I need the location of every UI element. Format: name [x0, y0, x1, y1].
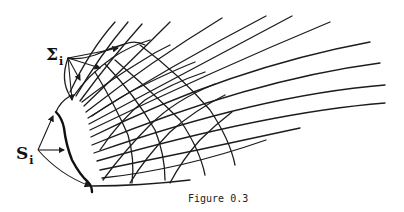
s-subscript: i	[29, 154, 33, 167]
transverse-lines	[72, 40, 235, 183]
sigma-subscript: i	[59, 55, 63, 68]
mesh-figure	[0, 0, 404, 212]
radial-lines	[70, 16, 385, 178]
s-label: Si	[16, 143, 33, 163]
sigma-label: Σi	[46, 44, 63, 64]
figure-caption: Figure 0.3	[188, 193, 248, 204]
s-symbol: S	[16, 143, 28, 163]
sigma-symbol: Σ	[46, 44, 58, 64]
boundary-s	[56, 112, 92, 192]
